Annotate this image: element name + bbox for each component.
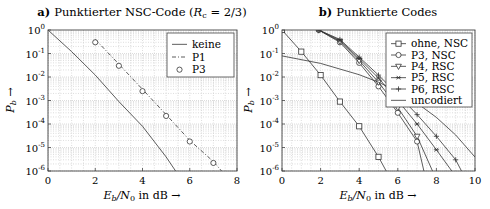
panel-a-xlabel: Eb/N0 in dB → — [102, 189, 180, 203]
y-tick-label: 100 — [262, 23, 279, 36]
legend-label: uncodiert — [411, 94, 463, 106]
y-tick-label: 100 — [28, 23, 45, 36]
y-tick-label: 10-2 — [25, 70, 45, 83]
x-tick-label: 4 — [139, 175, 145, 186]
panel-b-title: b)Punktierte Codes — [319, 5, 438, 19]
x-tick-label: 6 — [187, 175, 193, 186]
x-tick-label: 0 — [45, 175, 51, 186]
y-tick-label: 10-2 — [259, 70, 279, 83]
legend-label: keine — [192, 38, 221, 50]
panel-a-ylabel: Pb → — [4, 87, 18, 113]
y-tick-label: 10-3 — [259, 94, 279, 107]
legend-label: P3 — [192, 63, 206, 75]
panel-a-legend: keineP1P3 — [167, 33, 234, 77]
legend-label: P3, NSC — [411, 49, 456, 61]
panel-b-legend: ohne, NSCP3, NSCP4, RSCP5, RSCP6, RSCunc… — [386, 33, 472, 107]
panel-b: b)Punktierte Codes 024681010010-110-210-… — [242, 5, 481, 203]
x-tick-label: 10 — [469, 175, 482, 186]
y-tick-label: 10-4 — [259, 117, 279, 130]
panel-a-title: a)Punktierter NSC-Code (Rc = 2/3) — [37, 5, 246, 20]
legend-label: P1 — [192, 51, 206, 63]
x-tick-label: 6 — [395, 175, 401, 186]
y-tick-label: 10-4 — [25, 117, 45, 130]
x-tick-label: 2 — [317, 175, 323, 186]
y-tick-label: 10-3 — [25, 94, 45, 107]
y-tick-label: 10-1 — [259, 47, 279, 60]
panel-b-xlabel: Eb/N0 in dB → — [338, 189, 416, 203]
legend-label: P4, RSC — [411, 60, 455, 72]
panel-a: a)Punktierter NSC-Code (Rc = 2/3) 024681… — [4, 5, 247, 203]
x-tick-label: 0 — [279, 175, 285, 186]
svg-text:Pb →: Pb → — [242, 87, 256, 113]
svg-text:Pb →: Pb → — [4, 87, 18, 113]
x-tick-label: 8 — [433, 175, 439, 186]
chart-figure: a)Punktierter NSC-Code (Rc = 2/3) 024681… — [0, 0, 490, 209]
y-tick-label: 10-5 — [25, 141, 45, 154]
y-tick-label: 10-1 — [25, 47, 45, 60]
legend-label: P5, RSC — [411, 71, 455, 83]
y-tick-label: 10-6 — [259, 164, 279, 177]
panel-b-ylabel: Pb → — [242, 87, 256, 113]
legend-label: ohne, NSC — [411, 37, 468, 49]
y-tick-label: 10-6 — [25, 164, 45, 177]
x-tick-label: 8 — [234, 175, 240, 186]
legend-label: P6, RSC — [411, 83, 455, 95]
y-tick-label: 10-5 — [259, 141, 279, 154]
x-tick-label: 4 — [356, 175, 362, 186]
x-tick-label: 2 — [92, 175, 98, 186]
